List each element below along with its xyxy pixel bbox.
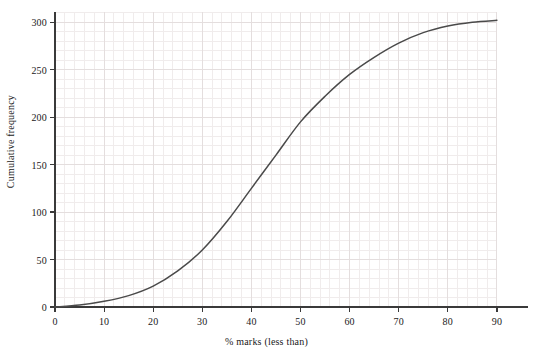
x-tick-label: 50 xyxy=(295,316,305,327)
y-tick-label: 200 xyxy=(22,112,47,123)
minor-gridlines xyxy=(55,12,497,307)
cumulative-frequency-chart: 0102030405060708090 050100150200250300 %… xyxy=(0,0,533,353)
x-axis-title: % marks (less than) xyxy=(0,336,533,347)
y-tick-label: 100 xyxy=(22,207,47,218)
y-tick-label: 300 xyxy=(22,17,47,28)
x-tick-label: 60 xyxy=(344,316,354,327)
y-tick-label: 0 xyxy=(22,302,47,313)
x-tick-label: 40 xyxy=(246,316,256,327)
major-gridlines xyxy=(55,12,497,307)
x-tick-label: 20 xyxy=(148,316,158,327)
y-tick-label: 50 xyxy=(22,254,47,265)
x-tick-label: 90 xyxy=(492,316,502,327)
x-tick-label: 30 xyxy=(197,316,207,327)
x-tick-label: 0 xyxy=(52,316,57,327)
x-tick-label: 80 xyxy=(443,316,453,327)
data-curve xyxy=(55,20,497,307)
x-tick-label: 70 xyxy=(393,316,403,327)
y-tick-label: 250 xyxy=(22,64,47,75)
x-tick-label: 10 xyxy=(99,316,109,327)
y-tick-label: 150 xyxy=(22,159,47,170)
y-axis-title: Cumulative frequency xyxy=(5,95,16,188)
axis-lines xyxy=(55,12,528,307)
chart-canvas xyxy=(0,0,533,353)
